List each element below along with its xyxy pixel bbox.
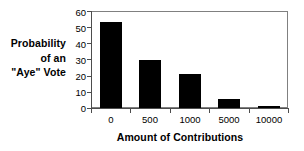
y-tick-mark-50 <box>87 27 91 28</box>
x-tick-mark-0 <box>91 109 92 113</box>
bar-0 <box>100 22 122 108</box>
y-tick-label-30: 30 <box>66 56 86 66</box>
y-tick-mark-40 <box>87 43 91 44</box>
y-tick-label-10: 10 <box>66 88 86 98</box>
y-tick-mark-10 <box>87 92 91 93</box>
bar-5000 <box>218 99 240 108</box>
bar-10000 <box>258 106 280 108</box>
x-tick-mark-4 <box>249 109 250 113</box>
y-tick-mark-60 <box>87 11 91 12</box>
y-axis-label: Probability of an "Aye" Vote <box>0 36 66 80</box>
y-tick-label-50: 50 <box>66 24 86 34</box>
y-tick-mark-30 <box>87 59 91 60</box>
x-tick-mark-5 <box>288 109 289 113</box>
y-tick-label-60: 60 <box>66 8 86 18</box>
x-tick-mark-2 <box>170 109 171 113</box>
y-tick-mark-20 <box>87 76 91 77</box>
y-axis-label-line-2: of an <box>0 51 66 66</box>
y-tick-label-0: 0 <box>66 104 86 114</box>
x-tick-label-10000: 10000 <box>241 114 297 125</box>
y-tick-label-40: 40 <box>66 40 86 50</box>
y-tick-label-20: 20 <box>66 72 86 82</box>
bar-1000 <box>179 74 201 108</box>
x-axis-label: Amount of Contributions <box>60 131 300 143</box>
y-axis-label-line-3: "Aye" Vote <box>0 65 66 80</box>
x-tick-mark-1 <box>130 109 131 113</box>
y-axis-label-line-1: Probability <box>0 36 66 51</box>
bar-500 <box>139 60 161 108</box>
bar-chart-figure: Probability of an "Aye" Vote 60 50 40 30… <box>0 0 304 151</box>
x-tick-mark-3 <box>209 109 210 113</box>
y-axis-line <box>91 11 92 109</box>
x-axis-line <box>91 108 289 109</box>
